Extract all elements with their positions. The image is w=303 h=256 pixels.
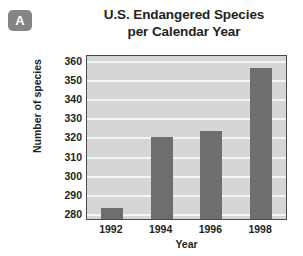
y-axis-tick-label: 310 — [48, 151, 82, 163]
plot-area — [86, 55, 287, 220]
y-axis-tick-label: 350 — [48, 74, 82, 86]
y-axis-tick-label: 300 — [48, 170, 82, 182]
y-axis-tick-label: 360 — [48, 55, 82, 67]
chart-figure: A U.S. Endangered Species per Calendar Y… — [0, 0, 303, 256]
y-axis-tick-label: 340 — [48, 93, 82, 105]
x-axis-tick-label: 1998 — [238, 223, 282, 235]
x-axis-tick-label: 1994 — [139, 223, 183, 235]
bar — [151, 137, 173, 219]
bar — [101, 208, 123, 220]
y-axis-tick-labels: 280290300310320330340350360 — [48, 55, 82, 220]
x-axis-tick-label: 1992 — [89, 223, 133, 235]
panel-letter-badge: A — [8, 10, 32, 31]
y-axis-tick-label: 320 — [48, 131, 82, 143]
bar — [200, 131, 222, 219]
chart-title: U.S. Endangered Species per Calendar Yea… — [70, 6, 298, 40]
y-axis-tick-label: 290 — [48, 189, 82, 201]
gridline — [87, 61, 286, 63]
x-axis-tick-label: 1996 — [188, 223, 232, 235]
y-axis-tick-label: 280 — [48, 208, 82, 220]
chart-title-line-2: per Calendar Year — [70, 23, 298, 40]
x-axis-tick-labels: 1992199419961998 — [86, 223, 287, 239]
x-axis-title: Year — [86, 238, 287, 250]
y-axis-tick-label: 330 — [48, 112, 82, 124]
bar — [250, 68, 272, 219]
chart-title-line-1: U.S. Endangered Species — [70, 6, 298, 23]
y-axis-title: Number of species — [31, 26, 43, 186]
